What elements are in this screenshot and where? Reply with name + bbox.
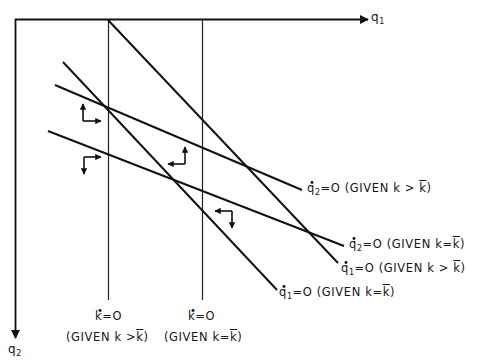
label-q1dot-zero-k-gt-kbar: •q1=O (GIVEN k > k) [341, 263, 466, 277]
given: (GIVEN [387, 237, 431, 251]
given: (GIVEN [164, 330, 208, 344]
cond-op: > [405, 181, 415, 195]
cond-op: > [439, 261, 449, 275]
q1dot-zero-line-k-gt-kbar [108, 20, 338, 263]
dot-mark: • [309, 178, 316, 188]
q2dot-zero-line-k-gt-kbar [55, 85, 302, 190]
label-kdot-zero-k-gt-kbar: •k=O [95, 311, 122, 323]
cond-k: k [212, 330, 219, 344]
label-q2dot-zero-k-gt-kbar: •q2=O (GIVEN k > k) [307, 183, 432, 197]
dot-mark: • [281, 282, 288, 292]
label-q1dot-zero-k-eq-kbar: •q1=O (GIVEN k=k) [279, 287, 395, 301]
q2-axis-label-var: q [8, 342, 16, 356]
label-kdot-given-k-gt-kbar: (GIVEN k >k) [66, 332, 149, 344]
eq: =O [321, 181, 341, 195]
cond-k: k [427, 261, 434, 275]
dot-mark: • [97, 306, 104, 316]
label-kdot-zero-k-eq-kbar: •k=O [188, 311, 215, 323]
eq: =O [355, 261, 375, 275]
cond-op: = [442, 237, 452, 251]
q1-axis-label: q1 [371, 11, 385, 26]
cond-op: > [126, 330, 136, 344]
given: (GIVEN [379, 261, 423, 275]
label-q2dot-zero-k-eq-kbar: •q2=O (GIVEN k=k) [349, 239, 465, 253]
given: (GIVEN [66, 330, 110, 344]
cond-op: = [220, 330, 230, 344]
given: (GIVEN [317, 285, 361, 299]
dot-mark: • [190, 306, 197, 316]
close: ) [237, 330, 242, 344]
eq: =O [102, 309, 122, 323]
close: ) [426, 181, 431, 195]
label-kdot-given-k-eq-kbar: (GIVEN k=k) [164, 332, 242, 344]
q1-axis-label-var: q [371, 10, 379, 24]
direction-arrow-right-down [84, 157, 101, 174]
dot-mark: • [351, 234, 358, 244]
given: (GIVEN [345, 181, 389, 195]
direction-arrow-up-left [168, 147, 185, 164]
cond-op: = [372, 285, 382, 299]
close: ) [390, 285, 395, 299]
dot-mark: • [343, 258, 350, 268]
cond-kbar: k [383, 285, 390, 299]
eq: =O [363, 237, 383, 251]
cond-k: k [393, 181, 400, 195]
close: ) [460, 261, 465, 275]
close: ) [143, 330, 148, 344]
cond-kbar: k [453, 237, 460, 251]
eq: =O [195, 309, 215, 323]
q1dot-zero-line-k-eq-kbar [63, 62, 277, 290]
cond-k: k [114, 330, 121, 344]
direction-arrow-up-right [83, 104, 101, 121]
close: ) [460, 237, 465, 251]
q2-axis-label-sub: 2 [16, 349, 22, 358]
q2-axis-label: q2 [8, 343, 22, 358]
eq: =O [293, 285, 313, 299]
q1-axis-label-sub: 1 [379, 17, 385, 26]
